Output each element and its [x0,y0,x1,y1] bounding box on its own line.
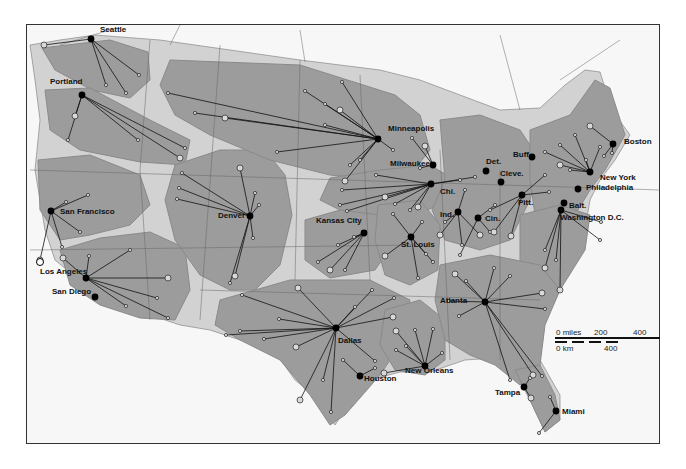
endpoint-circle [602,154,605,157]
endpoint-circle [228,281,231,284]
hub-dot [428,181,435,188]
endpoint-circle [548,395,551,398]
hub-dot [247,213,254,220]
endpoint-circle [323,102,326,105]
city-label: Boston [624,138,652,146]
city-label: Washington D.C. [560,214,624,222]
endpoint-circle [340,80,343,83]
endpoint-circle [370,288,373,291]
endpoint-circle [416,276,419,279]
endpoint-circle [338,203,341,206]
endpoint-circle [422,143,428,149]
endpoint-circle [382,194,388,200]
city-label: Dallas [338,337,362,345]
endpoint-circle [382,253,388,259]
endpoint-circle [464,279,467,282]
hub-dot [333,325,340,332]
endpoint-circle [166,91,169,94]
endpoint-circle [584,158,587,161]
city-label: Philadelphia [586,184,633,192]
endpoint-circle [177,155,183,161]
city-label: Balt. [569,202,586,210]
city-label: Atlanta [440,297,467,305]
endpoint-circle [557,287,563,293]
endpoint-circle [275,150,278,153]
endpoint-circle [232,273,238,279]
endpoint-circle [175,197,178,200]
endpoint-circle [222,115,228,121]
endpoint-circle [492,266,495,269]
endpoint-circle [337,107,343,113]
endpoint-circle [373,366,376,369]
endpoint-circle [610,151,613,154]
endpoint-circle [528,376,531,379]
endpoint-circle [373,359,376,362]
endpoint-circle [224,333,227,336]
endpoint-circle [543,150,546,153]
hub-dot [357,373,364,380]
endpoint-circle [440,351,443,354]
endpoint-circle [557,162,563,168]
endpoint-circle [316,260,319,263]
endpoint-circle [193,111,196,114]
endpoint-circle [508,233,514,239]
hub-dot [79,92,86,99]
hub-dot [587,169,594,176]
endpoint-circle [460,243,463,246]
endpoint-circle [341,358,344,361]
endpoint-circle [554,258,557,261]
endpoint-circle [180,171,183,174]
hub-dot [482,299,489,306]
endpoint-circle [177,186,180,189]
endpoint-circle [558,143,561,146]
endpoint-circle [251,236,254,239]
endpoint-circle [508,274,511,277]
hollow-marker [37,259,44,266]
endpoint-circle [238,329,241,332]
endpoint-circle [72,113,78,119]
city-label: Det. [486,158,501,166]
endpoint-circle [128,248,131,251]
endpoint-circle [87,254,90,257]
endpoint-circle [342,178,348,184]
endpoint-circle [393,202,396,205]
endpoint-circle [345,209,348,212]
hub-dot [483,168,490,175]
city-label: Minneapolis [388,125,434,133]
endpoint-circle [587,123,593,129]
hub-dot [498,179,505,186]
city-label: Pitt. [518,199,533,207]
city-label: San Francisco [60,208,115,216]
endpoint-circle [165,275,171,281]
endpoint-circle [431,327,434,330]
endpoint-circle [431,260,434,263]
endpoint-circle [404,344,407,347]
city-label: Miami [562,408,585,416]
endpoint-circle [539,290,545,296]
city-label: Denver [218,212,245,220]
region-florida [515,365,560,432]
endpoint-circle [437,232,443,238]
scale-bar [555,337,660,343]
endpoint-circle [124,304,127,307]
city-label: Chi. [440,188,455,196]
endpoint-circle [391,148,394,151]
endpoint-circle [598,145,601,148]
endpoint-circle [60,245,63,248]
endpoint-circle [540,374,543,377]
endpoint-circle [543,307,546,310]
endpoint-circle [488,208,491,211]
city-label: Cleve. [500,170,524,178]
endpoint-circle [327,267,333,273]
endpoint-circle [358,158,361,161]
region-dallas [215,280,410,425]
endpoint-circle [424,252,427,255]
endpoint-circle [60,255,66,261]
endpoint-circle [166,316,169,319]
endpoint-circle [493,203,496,206]
endpoint-circle [295,285,301,291]
endpoint-circle [297,397,303,403]
endpoint-circle [443,220,446,223]
endpoint-circle [343,268,346,271]
endpoint-circle [543,248,546,251]
